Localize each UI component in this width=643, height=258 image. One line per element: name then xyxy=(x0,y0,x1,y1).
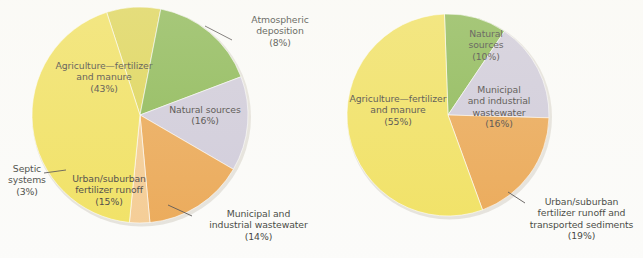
two-pie-charts-figure: Atmospheric deposition (8%)Natural sourc… xyxy=(0,0,643,258)
pie-chart-right: Natural sources (10%)Municipal and indus… xyxy=(322,0,643,258)
slice-label-urban-suburban-fertilizer-runoff-sediments: Urban/suburban fertilizer runoff and tra… xyxy=(520,196,643,242)
slice-label-agriculture-fertilizer-and-manure: Agriculture—fertilizer and manure (55%) xyxy=(337,93,459,127)
slice-label-agriculture-fertilizer-and-manure: Agriculture—fertilizer and manure (43%) xyxy=(43,60,165,94)
slice-label-atmospheric-deposition: Atmospheric deposition (8%) xyxy=(237,14,323,48)
slice-label-natural-sources: Natural sources (16%) xyxy=(160,104,250,127)
slice-label-septic-systems: Septic systems (3%) xyxy=(2,163,52,197)
slice-label-urban-suburban-fertilizer-runoff: Urban/suburban fertilizer runoff (15%) xyxy=(66,173,152,207)
pie-chart-left: Atmospheric deposition (8%)Natural sourc… xyxy=(0,0,322,258)
slice-label-natural-sources: Natural sources (10%) xyxy=(457,28,515,62)
slice-label-municipal-industrial-wastewater: Municipal and industrial wastewater (16%… xyxy=(459,84,539,130)
slice-label-municipal-industrial-wastewater: Municipal and industrial wastewater (14%… xyxy=(195,208,322,242)
